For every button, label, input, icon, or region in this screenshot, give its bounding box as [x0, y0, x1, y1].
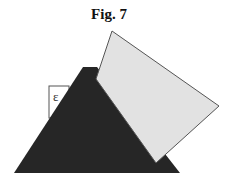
diagram-canvas: ε	[0, 0, 234, 185]
figure: Fig. 7 ε	[0, 0, 234, 185]
epsilon-label: ε	[53, 89, 59, 104]
